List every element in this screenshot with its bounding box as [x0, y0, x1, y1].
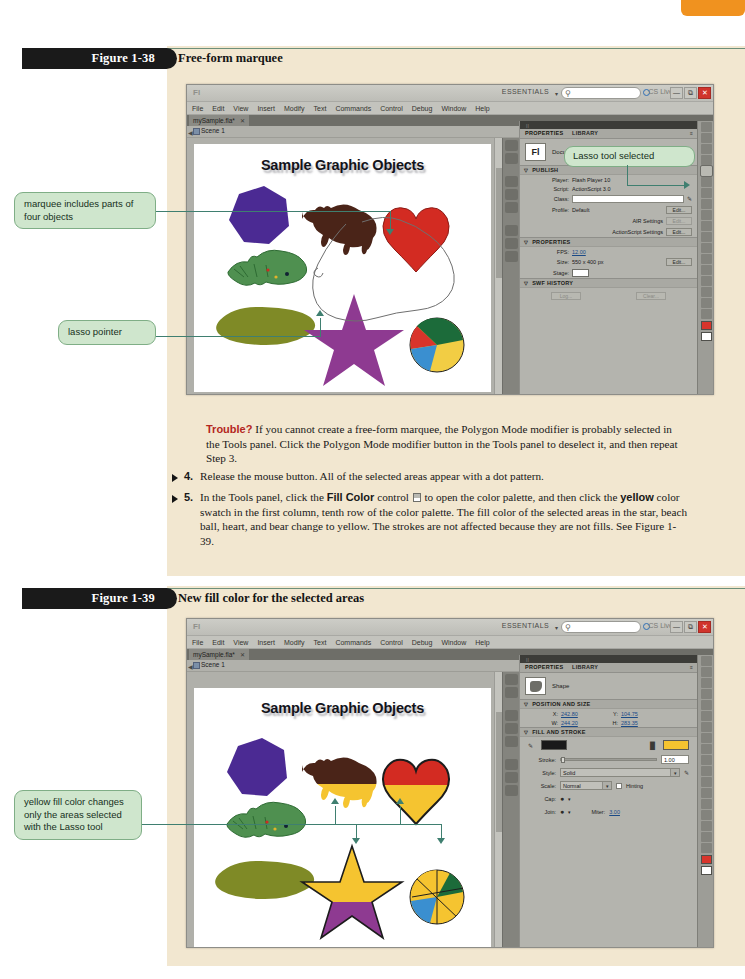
- deco-rail-icon-8[interactable]: [505, 251, 518, 262]
- document-tab-2[interactable]: mySample.fla* ✕: [189, 649, 249, 660]
- workspace-label[interactable]: ESSENTIALS: [502, 88, 549, 95]
- section-publish[interactable]: ▽ PUBLISH: [520, 165, 697, 175]
- close-button[interactable]: ✕: [698, 87, 711, 99]
- deco-rail-icon-b3[interactable]: [505, 710, 518, 721]
- free-transform-tool-icon-2[interactable]: [701, 678, 712, 688]
- stage-color-swatch[interactable]: [572, 269, 589, 277]
- subselection-tool-icon[interactable]: [701, 133, 712, 143]
- deco-rail-icon-6[interactable]: [505, 225, 518, 236]
- restore-button[interactable]: ⧉: [684, 87, 697, 99]
- eyedropper-tool-icon-2[interactable]: [701, 810, 712, 820]
- menu-modify-2[interactable]: Modify: [284, 639, 305, 646]
- swf-clear-button[interactable]: Clear...: [636, 292, 666, 300]
- menu-control[interactable]: Control: [380, 105, 403, 112]
- workspace-caret-icon[interactable]: ▾: [555, 90, 558, 97]
- chevron-down-icon-7[interactable]: ▾: [568, 796, 571, 802]
- deco-rail-icon-2[interactable]: [505, 153, 518, 164]
- workspace-label-2[interactable]: ESSENTIALS: [502, 622, 549, 629]
- eyedropper-tool-icon[interactable]: [701, 276, 712, 286]
- deco-rail-icon-b6[interactable]: [505, 759, 518, 770]
- edit-stroke-style-icon[interactable]: ✎: [684, 769, 689, 776]
- brush-tool-icon[interactable]: [701, 232, 712, 242]
- deco-rail-icon-b2[interactable]: [505, 687, 518, 698]
- menu-help[interactable]: Help: [475, 105, 489, 112]
- air-settings-edit-button[interactable]: Edit...: [666, 217, 692, 225]
- menu-edit-2[interactable]: Edit: [212, 639, 224, 646]
- chevron-down-icon-8[interactable]: ▾: [568, 809, 571, 815]
- close-icon-2[interactable]: ✕: [240, 652, 245, 658]
- minimize-button-2[interactable]: —: [670, 621, 683, 633]
- script-value[interactable]: ActionScript 3.0: [572, 186, 611, 192]
- deco-rail-icon-b7[interactable]: [505, 772, 518, 783]
- deco-tool-icon-2[interactable]: [701, 777, 712, 787]
- deco-rail-icon-5[interactable]: [505, 202, 518, 213]
- panel-drag-handle[interactable]: ⁞⁞: [520, 121, 697, 129]
- pencil-icon[interactable]: ✎: [687, 195, 692, 202]
- miter-value[interactable]: 3.00: [609, 809, 620, 815]
- lasso-tool-icon-2[interactable]: [701, 700, 712, 710]
- zoom-tool-icon[interactable]: [701, 309, 712, 319]
- lasso-tool-icon[interactable]: [701, 166, 712, 176]
- tab-properties[interactable]: PROPERTIES: [525, 130, 563, 136]
- chevron-down-icon-6[interactable]: ▾: [602, 782, 611, 789]
- slider-knob[interactable]: [561, 757, 565, 763]
- stroke-color-swatch[interactable]: [701, 321, 712, 330]
- subselection-tool-icon-2[interactable]: [701, 667, 712, 677]
- stage-canvas[interactable]: Sample Graphic Objects: [194, 144, 491, 392]
- join-icon[interactable]: ●: [560, 808, 564, 815]
- stroke-weight-value[interactable]: 1.00: [661, 755, 689, 764]
- rectangle-tool-icon[interactable]: [701, 210, 712, 220]
- menu-help-2[interactable]: Help: [475, 639, 489, 646]
- scale-select[interactable]: Normal ▾: [560, 781, 612, 790]
- menu-window[interactable]: Window: [441, 105, 466, 112]
- deco-rail-icon-b8[interactable]: [505, 785, 518, 796]
- deco-rail-icon-b1[interactable]: [505, 674, 518, 685]
- close-button-2[interactable]: ✕: [698, 621, 711, 633]
- menu-insert[interactable]: Insert: [257, 105, 275, 112]
- pencil-tool-icon-2[interactable]: [701, 755, 712, 765]
- line-tool-icon-2[interactable]: [701, 733, 712, 743]
- stroke-color-control[interactable]: [541, 740, 567, 750]
- tab-properties-2[interactable]: PROPERTIES: [525, 664, 563, 670]
- tab-library-2[interactable]: LIBRARY: [572, 664, 598, 670]
- selection-tool-icon[interactable]: [701, 122, 712, 132]
- menu-debug[interactable]: Debug: [412, 105, 433, 112]
- deco-tool-icon[interactable]: [701, 243, 712, 253]
- deco-rail-icon-4[interactable]: [505, 189, 518, 200]
- minimize-button[interactable]: —: [670, 87, 683, 99]
- eraser-tool-icon-2[interactable]: [701, 821, 712, 831]
- cap-icon[interactable]: ●: [560, 795, 564, 802]
- menu-view-2[interactable]: View: [233, 639, 248, 646]
- deco-rail-icon-3[interactable]: [505, 176, 518, 187]
- eraser-tool-icon[interactable]: [701, 287, 712, 297]
- selection-tool-icon-2[interactable]: [701, 656, 712, 666]
- menu-text[interactable]: Text: [314, 105, 327, 112]
- deco-rail-icon-1[interactable]: [505, 140, 518, 151]
- class-input[interactable]: [572, 195, 684, 203]
- gradient-transform-tool-icon-2[interactable]: [701, 689, 712, 699]
- line-tool-icon[interactable]: [701, 199, 712, 209]
- scene-label-2[interactable]: Scene 1: [201, 661, 225, 668]
- pen-tool-icon-2[interactable]: [701, 711, 712, 721]
- x-value[interactable]: 242.80: [561, 711, 605, 717]
- actionscript-settings-edit-button[interactable]: Edit...: [666, 228, 692, 236]
- zoom-tool-icon-2[interactable]: [701, 843, 712, 853]
- free-transform-tool-icon[interactable]: [701, 144, 712, 154]
- panel-menu-icon-2[interactable]: ≡: [690, 664, 693, 670]
- section-properties[interactable]: ▽ PROPERTIES: [520, 237, 697, 247]
- fill-color-control[interactable]: [663, 740, 689, 750]
- swf-log-button[interactable]: Log...: [551, 292, 581, 300]
- player-value[interactable]: Flash Player 10: [572, 177, 610, 183]
- stage-canvas-2[interactable]: Sample Graphic Objects: [194, 688, 491, 948]
- search-input-2[interactable]: ⚲: [561, 621, 641, 633]
- text-tool-icon[interactable]: [701, 188, 712, 198]
- style-select[interactable]: Solid ▾: [560, 768, 680, 777]
- section-fill-and-stroke[interactable]: ▽ FILL AND STROKE: [520, 727, 697, 737]
- stroke-color-swatch-2[interactable]: [701, 855, 712, 864]
- hinting-checkbox[interactable]: [616, 783, 622, 789]
- size-edit-button[interactable]: Edit...: [666, 258, 692, 266]
- close-icon[interactable]: ✕: [240, 118, 245, 124]
- menu-control-2[interactable]: Control: [380, 639, 403, 646]
- menu-window-2[interactable]: Window: [441, 639, 466, 646]
- menu-view[interactable]: View: [233, 105, 248, 112]
